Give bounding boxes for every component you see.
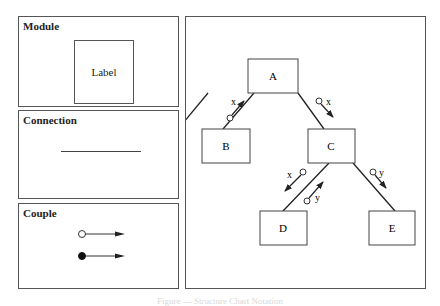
couple-ab-label: x (231, 96, 236, 107)
module-legend-title: Module (23, 20, 59, 32)
couple-dc-y-label: y (315, 192, 320, 203)
couple-cd-x-label: x (287, 169, 292, 180)
module-example-box: Label (74, 40, 134, 104)
connection-a-b-line (186, 93, 209, 129)
module-b-label: B (222, 140, 229, 152)
module-e-label: E (389, 222, 396, 234)
module-example-label: Label (91, 66, 116, 78)
module-c-label: C (327, 140, 334, 152)
structure-chart-panel: A B C D E x x (185, 16, 426, 289)
module-c[interactable]: C (308, 129, 355, 163)
module-d-label: D (279, 222, 287, 234)
couple-ce-label: y (379, 167, 384, 178)
module-a-label: A (269, 70, 277, 82)
line-a-b (186, 93, 209, 129)
edge-a-b (186, 93, 209, 129)
control-couple-icon (79, 253, 126, 260)
couple-ac-label: x (326, 96, 331, 107)
figure-caption: Figure — Structure Chart Notation (0, 296, 440, 306)
module-a[interactable]: A (248, 59, 298, 93)
couple-legend-panel: Couple (18, 203, 179, 289)
connector-a-b (186, 93, 254, 129)
module-legend-panel: Module Label (18, 16, 179, 107)
couple-symbols (19, 204, 180, 290)
module-e[interactable]: E (369, 211, 415, 245)
couple-ac-x: x (316, 96, 333, 117)
couple-cd-x: x (285, 169, 306, 191)
conn-a-b (223, 93, 254, 129)
connection-legend-title: Connection (23, 114, 77, 126)
structure-chart: A B C D E x x (186, 17, 427, 290)
data-couple-icon (79, 231, 126, 238)
link-a-b (186, 93, 208, 129)
connection-a-b (186, 93, 208, 129)
connection-legend-panel: Connection (18, 110, 179, 199)
connection-line-example (61, 151, 141, 152)
connection-ab (186, 93, 210, 129)
module-d[interactable]: D (260, 211, 307, 245)
module-b[interactable]: B (202, 129, 250, 163)
edge-a-b-visible (186, 93, 210, 129)
edge-ab (186, 93, 208, 129)
